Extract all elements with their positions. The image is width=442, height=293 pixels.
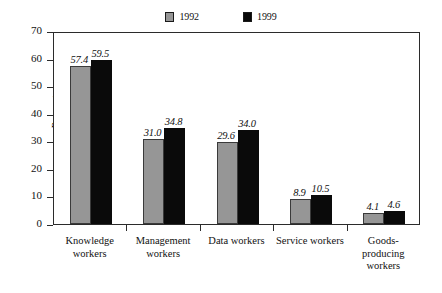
category-label-line: workers (126, 248, 199, 261)
category-label: Managementworkers (126, 235, 199, 260)
value-label-1999: 10.5 (312, 184, 330, 195)
category-label-line: workers (347, 260, 420, 273)
y-axis-tick-mark (47, 225, 53, 226)
gray-swatch-icon (165, 12, 174, 22)
value-label-1999: 4.6 (388, 200, 401, 211)
bar-1999 (238, 130, 259, 224)
category-label-line: Data workers (200, 235, 273, 248)
value-label-1992: 57.4 (70, 55, 88, 66)
category-label-line: Service workers (273, 235, 346, 248)
black-swatch-icon (243, 12, 252, 22)
x-axis-tick-mark (273, 225, 274, 231)
legend-item-1999: 1999 (243, 12, 277, 22)
y-axis-tick-label: 30 (31, 135, 42, 146)
bar-1992 (217, 142, 238, 224)
category-label: Goods-producingworkers (347, 235, 420, 273)
bar-1992 (70, 66, 91, 224)
category-label: Service workers (273, 235, 346, 248)
value-label-1999: 34.0 (238, 119, 256, 130)
x-axis-tick-mark (347, 225, 348, 231)
legend-label-1999: 1999 (257, 12, 277, 22)
category-label-line: workers (53, 248, 126, 261)
bar-1999 (384, 211, 405, 224)
y-axis-tick-label: 10 (31, 190, 42, 201)
category-label-line: Management (126, 235, 199, 248)
legend-label-1992: 1992 (179, 12, 199, 22)
plot-area (53, 32, 420, 225)
y-axis-tick-label: 70 (31, 25, 42, 36)
bar-1992 (290, 199, 311, 224)
y-axis-tick-label: 60 (31, 53, 42, 64)
value-label-1992: 29.6 (217, 131, 235, 142)
value-label-1999: 59.5 (91, 49, 109, 60)
bar-1992 (143, 139, 164, 224)
y-axis-tick-label: 40 (31, 108, 42, 119)
category-label: Data workers (200, 235, 273, 248)
bar-1999 (311, 195, 332, 224)
value-label-1992: 8.9 (293, 188, 306, 199)
bar-chart: 1992 1999 Percentages 706050403020100 57… (0, 0, 442, 293)
value-label-1999: 34.8 (165, 117, 183, 128)
category-label-line: Goods- (347, 235, 420, 248)
bar-1992 (363, 213, 384, 224)
x-axis-tick-mark (200, 225, 201, 231)
bar-1999 (91, 60, 112, 224)
category-label: Knowledgeworkers (53, 235, 126, 260)
value-label-1992: 4.1 (367, 202, 380, 213)
y-axis-tick-label: 20 (31, 163, 42, 174)
y-axis-tick-label: 0 (37, 218, 43, 229)
category-label-line: producing (347, 248, 420, 261)
chart-legend: 1992 1999 (0, 12, 442, 22)
bar-1999 (164, 128, 185, 224)
category-label-line: Knowledge (53, 235, 126, 248)
x-axis-tick-mark (126, 225, 127, 231)
legend-item-1992: 1992 (165, 12, 199, 22)
y-axis-tick-label: 50 (31, 80, 42, 91)
value-label-1992: 31.0 (144, 128, 162, 139)
